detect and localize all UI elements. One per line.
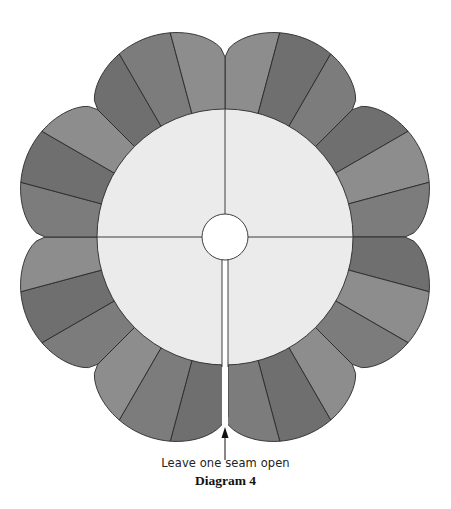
- diagram-title: Diagram 4: [0, 473, 451, 489]
- open-seam-annotation: Leave one seam open: [0, 456, 451, 470]
- center-hole: [202, 214, 248, 260]
- dresden-plate-diagram: [0, 0, 451, 460]
- caption: Leave one seam open Diagram 4: [0, 448, 451, 489]
- open-seam-gap: [222, 237, 228, 460]
